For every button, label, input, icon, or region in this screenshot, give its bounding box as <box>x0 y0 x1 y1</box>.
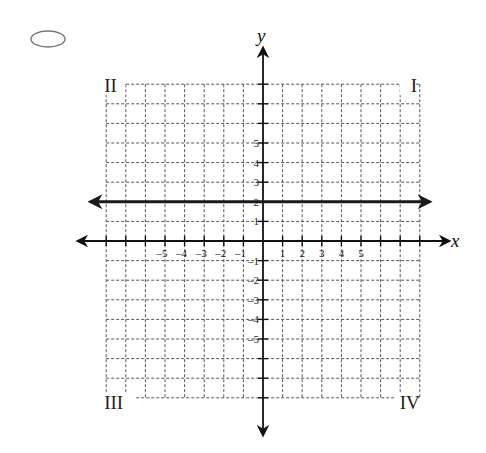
x-tick-label: –1 <box>234 247 246 259</box>
y-tick-label: –4 <box>247 313 260 325</box>
y-tick-label: 1 <box>254 215 260 227</box>
y-tick-label: 3 <box>254 176 260 188</box>
radio-bubble-icon[interactable] <box>31 31 65 47</box>
x-tick-label: –2 <box>214 247 226 259</box>
y-tick-label: 5 <box>254 137 260 149</box>
x-tick-label: 3 <box>319 247 325 259</box>
axes <box>78 48 449 435</box>
y-axis-label: y <box>255 25 266 46</box>
x-tick-label: 2 <box>299 247 305 259</box>
y-tick-label: 4 <box>254 157 260 169</box>
x-axis-label: x <box>450 230 460 251</box>
coordinate-plane: –5–4–3–2–11234554321–1–2–3–4–5 IIIIIIIV … <box>0 0 486 453</box>
quadrant-label-i: I <box>411 75 417 96</box>
coordinate-plane-figure: –5–4–3–2–11234554321–1–2–3–4–5 IIIIIIIV … <box>0 0 486 453</box>
x-tick-label: –5 <box>156 247 169 259</box>
quadrant-label-iv: IV <box>400 392 420 413</box>
x-tick-label: 4 <box>339 247 345 259</box>
x-tick-label: 5 <box>358 247 364 259</box>
quadrant-label-ii: II <box>104 75 117 96</box>
x-tick-label: –3 <box>195 247 208 259</box>
y-tick-label: –3 <box>247 294 260 306</box>
quadrant-labels: IIIIIIIV <box>103 75 420 413</box>
y-tick-label: –1 <box>247 255 259 267</box>
y-tick-label: –2 <box>247 274 259 286</box>
quadrant-label-iii: III <box>104 392 123 413</box>
x-tick-label: 1 <box>280 247 286 259</box>
y-tick-label: –5 <box>247 333 260 345</box>
x-tick-label: –4 <box>175 247 188 259</box>
